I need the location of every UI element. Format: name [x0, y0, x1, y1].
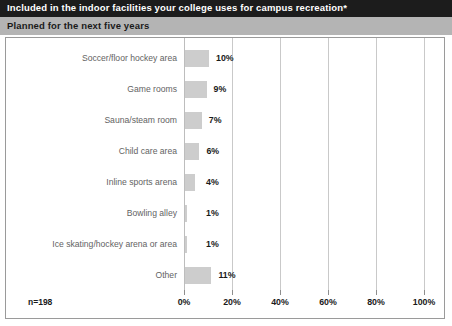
bar-row: Game rooms9%	[6, 81, 444, 98]
chart-subtitle-bar: Planned for the next five years	[0, 17, 452, 35]
page-title: Included in the indoor facilities your c…	[7, 2, 347, 13]
category-label: Bowling alley	[6, 208, 177, 218]
category-label: Inline sports arena	[6, 177, 177, 187]
chart-title-bar: Included in the indoor facilities your c…	[0, 0, 452, 17]
bar-row: Soccer/floor hockey area10%	[6, 50, 444, 67]
bar-row: Child care area6%	[6, 143, 444, 160]
category-label: Sauna/steam room	[6, 115, 177, 125]
category-label: Soccer/floor hockey area	[6, 53, 177, 63]
bar	[185, 267, 211, 284]
chart-subtitle: Planned for the next five years	[7, 20, 149, 31]
x-tick-mark	[280, 290, 281, 295]
x-tick-label: 20%	[212, 297, 252, 307]
bar-value-label: 9%	[214, 84, 227, 94]
chart-figure: Included in the indoor facilities your c…	[0, 0, 452, 326]
bar-row: Ice skating/hockey arena or area1%	[6, 236, 444, 253]
category-label: Other	[6, 270, 177, 280]
bar	[185, 205, 187, 222]
category-label: Child care area	[6, 146, 177, 156]
bar-row: Inline sports arena4%	[6, 174, 444, 191]
bar-value-label: 4%	[206, 177, 219, 187]
bar-row: Other11%	[6, 267, 444, 284]
bar	[185, 236, 187, 253]
category-label: Game rooms	[6, 84, 177, 94]
bar-row: Bowling alley1%	[6, 205, 444, 222]
x-tick-mark	[232, 290, 233, 295]
x-tick-label: 0%	[164, 297, 204, 307]
x-tick-mark	[184, 290, 185, 295]
x-tick-label: 80%	[356, 297, 396, 307]
bar-value-label: 1%	[206, 239, 219, 249]
bar-value-label: 10%	[216, 53, 234, 63]
category-label: Ice skating/hockey arena or area	[6, 239, 177, 249]
x-tick-label: 40%	[260, 297, 300, 307]
bar-row: Sauna/steam room7%	[6, 112, 444, 129]
bar-value-label: 1%	[206, 208, 219, 218]
bar	[185, 50, 209, 67]
sample-size-label: n=198	[28, 297, 52, 307]
bar-value-label: 7%	[209, 115, 222, 125]
bar	[185, 81, 207, 98]
bar-value-label: 6%	[206, 146, 219, 156]
x-tick-label: 100%	[404, 297, 444, 307]
bar	[185, 112, 202, 129]
bar-value-label: 11%	[218, 270, 235, 280]
plot-area: n=198 0%20%40%60%80%100%Soccer/floor hoc…	[6, 38, 444, 318]
x-tick-mark	[376, 290, 377, 295]
x-tick-mark	[328, 290, 329, 295]
bar	[185, 174, 195, 191]
x-tick-mark	[424, 290, 425, 295]
bar	[185, 143, 199, 160]
chart-panel: n=198 0%20%40%60%80%100%Soccer/floor hoc…	[5, 37, 445, 319]
x-tick-label: 60%	[308, 297, 348, 307]
